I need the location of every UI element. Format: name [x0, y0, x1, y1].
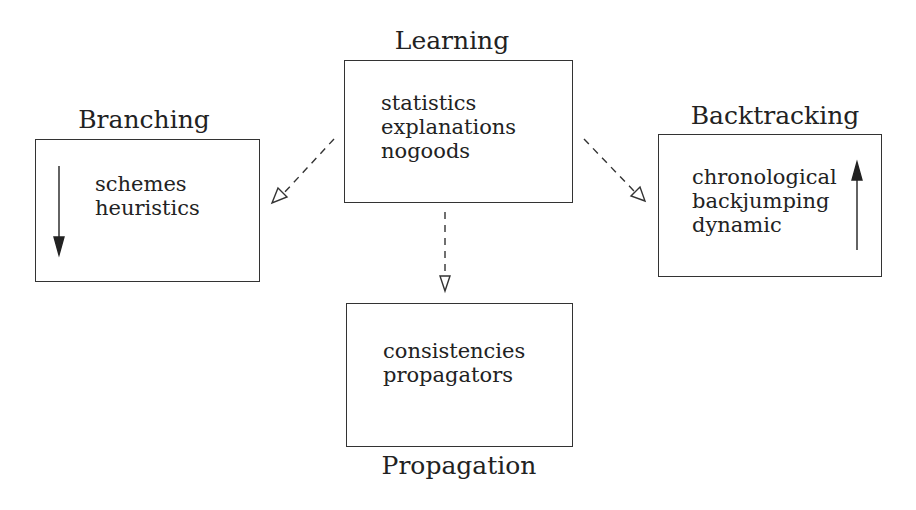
open-arrowhead-icon: [272, 188, 287, 203]
open-arrowhead-icon: [440, 276, 450, 291]
item: explanations: [381, 115, 516, 139]
item: propagators: [383, 363, 525, 387]
node-items-learning: statistics explanations nogoods: [381, 91, 516, 163]
item: schemes: [95, 172, 200, 196]
edge-learning-backtracking: [584, 139, 634, 191]
node-title-backtracking: Backtracking: [691, 101, 860, 130]
node-title-learning: Learning: [395, 26, 509, 55]
node-items-backtracking: chronological backjumping dynamic: [692, 165, 837, 237]
node-title-propagation: Propagation: [382, 451, 537, 480]
item: chronological: [692, 165, 837, 189]
item: backjumping: [692, 189, 837, 213]
node-backtracking: chronological backjumping dynamic: [658, 134, 882, 277]
item: nogoods: [381, 139, 516, 163]
item: heuristics: [95, 196, 200, 220]
node-learning: statistics explanations nogoods: [344, 60, 573, 203]
node-title-branching: Branching: [78, 105, 210, 134]
edge-learning-branching: [283, 139, 334, 194]
node-items-propagation: consistencies propagators: [383, 339, 525, 387]
item: dynamic: [692, 213, 837, 237]
node-items-branching: schemes heuristics: [95, 172, 200, 220]
node-branching: schemes heuristics: [35, 139, 260, 282]
node-propagation: consistencies propagators: [346, 303, 573, 447]
item: statistics: [381, 91, 516, 115]
item: consistencies: [383, 339, 525, 363]
